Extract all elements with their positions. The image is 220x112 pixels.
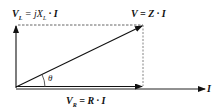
theta-label: θ (48, 74, 52, 83)
v-label: V = Z · I (131, 9, 166, 19)
vl-label: VL = jXL · I (12, 9, 58, 21)
theta-arc (42, 75, 45, 88)
phasor-diagram: VL = jXL · I V = Z · I VR = R · I I θ (0, 0, 220, 112)
v-vector-arrow (16, 26, 142, 87)
current-label: I (207, 84, 211, 94)
vr-label: VR = R · I (66, 96, 105, 108)
